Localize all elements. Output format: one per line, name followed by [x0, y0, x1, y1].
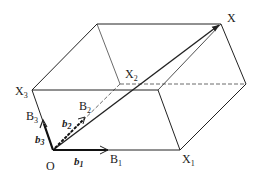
- edge-x3-topback: [32, 24, 97, 90]
- edge-right-x1: [180, 84, 246, 150]
- label-vector-b1: b1: [74, 155, 84, 169]
- label-x3: X3: [15, 84, 28, 100]
- edge-fronttop-x1: [158, 90, 180, 150]
- label-b1: B1: [110, 152, 122, 168]
- label-x2: X2: [125, 67, 138, 83]
- visible-edges: [32, 24, 246, 150]
- label-b3: B3: [26, 109, 38, 125]
- hidden-edges: [53, 84, 246, 150]
- edge-x2-topback: [97, 24, 120, 84]
- edge-fronttop-x: [158, 24, 221, 90]
- label-b2: B2: [79, 99, 91, 115]
- label-x1: X1: [182, 152, 195, 168]
- label-vector-b2: b2: [62, 117, 72, 131]
- basis-vector-b3: [44, 124, 53, 150]
- parallelepiped-diagram: O X1 X2 X3 X B1 B2 B3 b1 b2 b3: [0, 0, 261, 178]
- label-origin: O: [46, 159, 55, 173]
- label-vector-b3: b3: [35, 133, 45, 147]
- edge-x-right: [221, 24, 246, 84]
- label-x: X: [227, 11, 236, 25]
